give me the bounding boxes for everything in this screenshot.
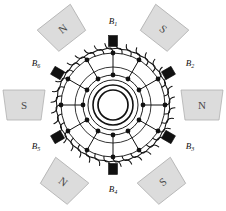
brush-5-label: B5 bbox=[32, 141, 41, 152]
brush-4-label: B4 bbox=[109, 184, 118, 195]
ring-tap-node bbox=[66, 129, 71, 134]
gramme-ring-armature-figure: NSSNNSB1B2B3B4B5B6 bbox=[0, 0, 226, 211]
pole-top-left: N bbox=[37, 4, 89, 53]
coil-turn bbox=[86, 150, 100, 166]
brush-6-subscript: 6 bbox=[37, 63, 40, 69]
ring-tap-node bbox=[156, 77, 161, 82]
brush-5-block[interactable] bbox=[51, 130, 65, 143]
pole-top-right: S bbox=[137, 4, 189, 53]
ring-tap-node bbox=[85, 58, 90, 63]
pole-right-label: N bbox=[198, 99, 206, 111]
pole-left-label: S bbox=[21, 99, 27, 111]
brush-2[interactable] bbox=[161, 66, 175, 79]
brush-5[interactable] bbox=[51, 130, 65, 143]
brush-6-block[interactable] bbox=[51, 66, 65, 79]
coil-turn bbox=[126, 44, 140, 60]
ring-tap-node bbox=[85, 148, 90, 153]
brush-3-block[interactable] bbox=[161, 130, 175, 143]
ring-tap-node bbox=[163, 103, 168, 108]
ring-tap-node bbox=[111, 155, 116, 160]
ring-tap-node bbox=[59, 103, 64, 108]
pole-bottom-left: N bbox=[37, 157, 89, 206]
ring-tap-node bbox=[137, 58, 142, 63]
brush-6-label: B6 bbox=[32, 58, 41, 69]
coil-turn bbox=[84, 49, 104, 53]
pole-bottom-right: S bbox=[137, 157, 189, 206]
ring-tap-node bbox=[66, 77, 71, 82]
brush-1[interactable] bbox=[109, 36, 118, 47]
brush-4[interactable] bbox=[109, 164, 118, 175]
brush-1-label: B1 bbox=[109, 16, 118, 27]
brush-3-subscript: 3 bbox=[190, 146, 194, 152]
brush-6[interactable] bbox=[51, 66, 65, 79]
ring-tap-node bbox=[111, 51, 116, 56]
ring-tap-node bbox=[137, 148, 142, 153]
coil-turn bbox=[52, 78, 68, 92]
armature-diagram-canvas: NSSNNSB1B2B3B4B5B6 bbox=[0, 0, 226, 211]
brush-4-block[interactable] bbox=[109, 164, 118, 175]
brush-3[interactable] bbox=[161, 130, 175, 143]
ring-tap-node bbox=[156, 129, 161, 134]
brush-3-label: B3 bbox=[186, 141, 195, 152]
armature-shaft bbox=[98, 90, 128, 120]
brush-1-block[interactable] bbox=[109, 36, 118, 47]
brush-1-subscript: 1 bbox=[114, 21, 117, 27]
coil-turn bbox=[158, 118, 174, 132]
brush-4-subscript: 4 bbox=[114, 189, 117, 195]
brush-2-subscript: 2 bbox=[191, 63, 194, 69]
pole-right: N bbox=[181, 90, 223, 120]
coil-turn bbox=[122, 156, 142, 160]
brush-5-subscript: 5 bbox=[37, 146, 40, 152]
brush-2-block[interactable] bbox=[161, 66, 175, 79]
pole-left: S bbox=[3, 90, 45, 120]
brush-2-label: B2 bbox=[186, 58, 195, 69]
